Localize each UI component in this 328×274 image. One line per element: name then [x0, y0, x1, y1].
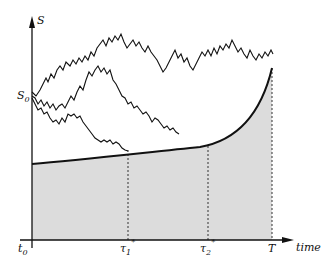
y-axis-arrowhead: [29, 16, 35, 28]
tau1-label: τ1*: [120, 238, 135, 257]
y-axis-label: S: [37, 14, 45, 27]
optimal-stopping-diagram: S time S0 t0 τ1* τ2* T: [0, 0, 328, 274]
x-axis-label: time: [296, 241, 321, 254]
tau2-label: τ2*: [200, 238, 215, 257]
x-axis-arrowhead: [282, 237, 294, 243]
sample-path-top: [32, 34, 273, 96]
exercise-region: [32, 68, 272, 240]
sample-path-bottom: [32, 98, 128, 151]
t0-label: t0: [18, 242, 28, 257]
sample-path-middle: [32, 66, 179, 134]
terminal-time-label: T: [268, 242, 277, 255]
s0-label: S0: [17, 89, 30, 104]
